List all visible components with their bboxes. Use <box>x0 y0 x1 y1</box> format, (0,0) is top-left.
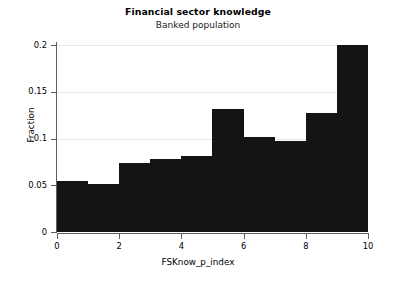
histogram-bar <box>181 156 212 232</box>
y-tick <box>51 185 57 186</box>
x-tick <box>119 234 120 239</box>
y-tick <box>51 92 57 93</box>
y-tick-label: 0.05 <box>28 181 47 190</box>
chart-subtitle: Banked population <box>0 19 396 31</box>
histogram-figure: Financial sector knowledge Banked popula… <box>0 0 396 283</box>
x-tick-label: 10 <box>353 241 383 251</box>
histogram-bar <box>57 181 88 232</box>
histogram-bar <box>337 45 368 232</box>
x-tick-label: 2 <box>104 241 134 251</box>
histogram-bar <box>306 113 337 232</box>
histogram-bar <box>119 163 150 232</box>
chart-title: Financial sector knowledge <box>0 6 396 18</box>
x-tick-label: 6 <box>229 241 259 251</box>
x-tick-label: 4 <box>166 241 196 251</box>
x-tick <box>368 234 369 239</box>
x-tick-label: 0 <box>42 241 72 251</box>
y-axis-title: Fraction <box>26 85 36 165</box>
x-tick-label: 8 <box>291 241 321 251</box>
y-tick <box>51 232 57 233</box>
y-tick-label: 0.2 <box>34 41 47 50</box>
x-tick <box>306 234 307 239</box>
histogram-bar <box>150 159 181 232</box>
x-tick <box>57 234 58 239</box>
histogram-bar <box>212 109 243 232</box>
histogram-bar <box>244 137 275 232</box>
x-tick <box>244 234 245 239</box>
y-axis-line <box>56 42 57 233</box>
histogram-bar <box>275 141 306 232</box>
histogram-bars <box>57 45 368 232</box>
plot-area <box>57 45 368 232</box>
histogram-bar <box>88 184 119 232</box>
x-tick <box>181 234 182 239</box>
y-tick-label: 0 <box>42 228 47 237</box>
y-tick <box>51 139 57 140</box>
y-tick <box>51 45 57 46</box>
title-block: Financial sector knowledge Banked popula… <box>0 6 396 31</box>
x-axis-title: FSKnow_p_index <box>0 257 396 267</box>
x-axis-line <box>57 233 369 234</box>
